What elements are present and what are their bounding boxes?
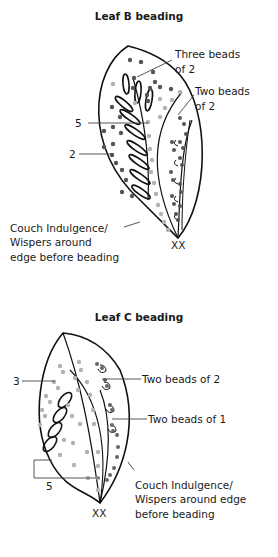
leaf-b-two-beads-label-1: Two beads bbox=[195, 84, 250, 98]
leaf-b-xx-label: XX bbox=[171, 238, 185, 252]
leaf-c-light-beads bbox=[38, 360, 100, 492]
leaf-b-couch-label-2: Wispers around bbox=[10, 235, 92, 249]
leaf-c-title: Leaf C beading bbox=[0, 311, 278, 323]
leaf-c-number-3: 3 bbox=[13, 374, 20, 388]
leaf-b-light-beads bbox=[111, 82, 182, 232]
leaf-c-couch-label-1: Couch Indulgence/ bbox=[135, 478, 233, 492]
leaf-c-couch-label-3: before beading bbox=[135, 507, 215, 521]
leaf-c-two-beads-of-1-label: Two beads of 1 bbox=[148, 412, 226, 426]
leaf-b-number-2: 2 bbox=[69, 147, 76, 161]
leaf-c-couch-label-2: Wispers around edge bbox=[135, 492, 246, 506]
leaf-c-two-beads-of-2-label: Two beads of 2 bbox=[142, 372, 220, 386]
leaf-b-couch-label-3: edge before beading bbox=[10, 250, 119, 264]
leaf-c-xx-label: XX bbox=[92, 506, 106, 520]
leaf-b-two-beads-label-2: of 2 bbox=[195, 99, 215, 113]
leaf-b-three-beads-label-2: of 2 bbox=[175, 62, 195, 76]
leaf-c-drawing bbox=[39, 333, 129, 503]
leaf-c-number-5: 5 bbox=[46, 479, 53, 493]
leaf-b-number-5: 5 bbox=[75, 116, 82, 130]
leaf-b-couch-label-1: Couch Indulgence/ bbox=[10, 221, 108, 235]
leaf-b-title: Leaf B beading bbox=[0, 10, 278, 22]
leaf-b-three-beads-label-1: Three beads bbox=[175, 47, 240, 61]
